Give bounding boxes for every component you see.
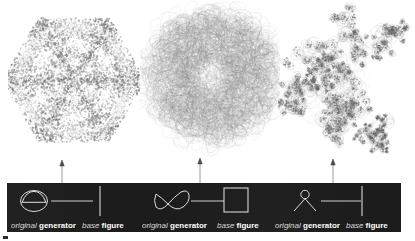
legend-connector-line-1 [51,199,93,203]
caption-italic: original [142,221,168,230]
legend-caption-generator-1: original generator [11,221,76,231]
legend-caption-generator-3: original generator [275,221,340,231]
caption-bold: figure [237,221,259,230]
figure-eight-icon [152,188,192,213]
fractal-gallery [0,0,415,160]
caption-italic: base [217,221,234,230]
fractal-image-dendritic [278,0,413,158]
circle-with-dome-icon [17,188,51,214]
legend-group-1: original generator base figure [7,183,138,232]
caption-italic: original [275,221,301,230]
legend-group-3: original generator base figure [271,183,401,232]
legend-connector-line-3 [321,199,361,203]
legend-panel: original generator base figure [7,183,401,232]
legend-caption-base-3: base figure [346,221,388,231]
vertical-segment-icon [359,186,365,216]
caption-bold: generator [303,221,340,230]
figure-root: original generator base figure [0,0,415,241]
legend-caption-base-2: base figure [217,221,259,231]
caption-bold: figure [102,221,124,230]
corner-tick-mark [3,236,8,239]
caption-italic: base [82,221,99,230]
caption-italic: base [346,221,363,230]
fractal-image-hexagonal [8,0,140,158]
caption-bold: generator [39,221,76,230]
caption-italic: original [11,221,37,230]
legend-group-2: original generator base figure [138,183,271,232]
vertical-segment-icon [97,186,103,216]
caption-bold: generator [170,221,207,230]
caption-bold: figure [366,221,388,230]
stick-figure-icon [287,189,323,213]
legend-caption-generator-2: original generator [142,221,207,231]
legend-caption-base-1: base figure [82,221,124,231]
fractal-image-rosette [140,0,280,158]
square-outline-icon [223,187,249,213]
legend-connector-line-2 [191,199,224,203]
